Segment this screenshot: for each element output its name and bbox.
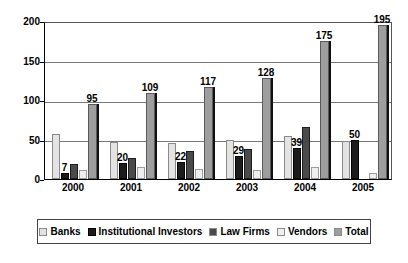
bar-institutional-investors-2005: 50 — [351, 140, 359, 180]
bar-institutional-investors-2000: 7 — [61, 173, 69, 179]
legend-swatch-icon — [39, 228, 47, 236]
legend-swatch-icon — [209, 228, 217, 236]
x-axis-tick-label-2001: 2001 — [102, 183, 160, 193]
x-axis-tick-label-2000: 2000 — [44, 183, 102, 193]
bar-value-label: 175 — [316, 31, 333, 41]
bar-institutional-investors-2001: 20 — [119, 163, 127, 179]
x-axis-tick-label-2005: 2005 — [334, 183, 392, 193]
bar-total-2005: 195 — [378, 25, 387, 179]
legend-swatch-icon — [277, 228, 285, 236]
bar-group-bars: 20109 — [103, 23, 161, 179]
bar-value-label: 195 — [374, 15, 391, 25]
bar-law-firms-2001 — [128, 158, 136, 179]
bar-banks-2000 — [52, 134, 60, 179]
bar-group-2004: 39175 — [277, 23, 335, 179]
y-axis-tick-mark — [40, 180, 44, 181]
bar-value-label: 50 — [349, 130, 360, 140]
legend-item-vendors[interactable]: Vendors — [277, 227, 327, 237]
x-axis-tick-label-2004: 2004 — [276, 183, 334, 193]
y-axis-tick-label: 150 — [0, 57, 40, 67]
y-axis-tick-label: 50 — [0, 136, 40, 146]
legend-swatch-icon — [334, 228, 342, 236]
y-axis-tick-label: 100 — [0, 96, 40, 106]
bar-law-firms-2004 — [302, 127, 310, 179]
bar-institutional-investors-2004: 39 — [293, 148, 301, 179]
legend-label: Institutional Investors — [99, 227, 203, 237]
bar-vendors-2004 — [311, 167, 319, 179]
bar-vendors-2003 — [253, 170, 261, 179]
bar-group-2000: 795 — [45, 23, 103, 179]
bar-group-2005: 50195 — [335, 23, 393, 179]
bar-value-label: 117 — [200, 77, 216, 87]
bar-law-firms-2000 — [70, 164, 78, 179]
bar-group-bars: 29128 — [219, 23, 277, 179]
legend-label: Banks — [50, 227, 80, 237]
bar-value-label: 39 — [291, 138, 302, 148]
bar-total-2004: 175 — [320, 41, 329, 179]
bar-vendors-2005 — [369, 173, 377, 179]
bar-total-2000: 95 — [88, 104, 97, 179]
bar-law-firms-2003 — [244, 149, 252, 179]
legend-item-institutional-investors[interactable]: Institutional Investors — [88, 227, 203, 237]
bar-group-2001: 20109 — [103, 23, 161, 179]
x-axis-tick-label-2003: 2003 — [218, 183, 276, 193]
legend-item-banks[interactable]: Banks — [39, 227, 80, 237]
bar-total-2002: 117 — [204, 87, 213, 179]
bar-group-bars: 795 — [45, 23, 103, 179]
bar-vendors-2002 — [195, 169, 203, 179]
plot-area: 7952010922117291283917550195 — [44, 22, 392, 180]
bar-value-label: 20 — [117, 153, 128, 163]
bar-group-bars: 50195 — [335, 23, 393, 179]
bar-institutional-investors-2002: 22 — [177, 162, 185, 179]
legend-item-law-firms[interactable]: Law Firms — [209, 227, 269, 237]
legend-label: Vendors — [288, 227, 327, 237]
legend-label: Law Firms — [220, 227, 269, 237]
x-axis-tick-label-2002: 2002 — [160, 183, 218, 193]
bar-group-2003: 29128 — [219, 23, 277, 179]
bar-chart-figure: 050100150200 795201092211729128391755019… — [0, 0, 408, 263]
chart-legend: BanksInstitutional InvestorsLaw FirmsVen… — [37, 219, 371, 244]
bar-value-label: 128 — [258, 68, 275, 78]
bar-group-bars: 22117 — [161, 23, 219, 179]
bar-law-firms-2002 — [186, 151, 194, 179]
y-axis-tick-label: 0 — [0, 175, 40, 185]
bar-banks-2005 — [342, 141, 350, 179]
legend-item-total[interactable]: Total — [334, 227, 368, 237]
bar-group-bars: 39175 — [277, 23, 335, 179]
bar-vendors-2001 — [137, 167, 145, 179]
bar-value-label: 7 — [62, 163, 68, 173]
bar-value-label: 29 — [233, 146, 244, 156]
bar-institutional-investors-2003: 29 — [235, 156, 243, 179]
bar-value-label: 109 — [142, 83, 159, 93]
bar-group-2002: 22117 — [161, 23, 219, 179]
bar-value-label: 95 — [86, 94, 97, 104]
bar-total-2001: 109 — [146, 93, 155, 179]
bar-total-2003: 128 — [262, 78, 271, 179]
legend-swatch-icon — [88, 228, 96, 236]
bar-vendors-2000 — [79, 170, 87, 179]
legend-label: Total — [345, 227, 368, 237]
bar-value-label: 22 — [175, 152, 186, 162]
y-axis-tick-label: 200 — [0, 17, 40, 27]
